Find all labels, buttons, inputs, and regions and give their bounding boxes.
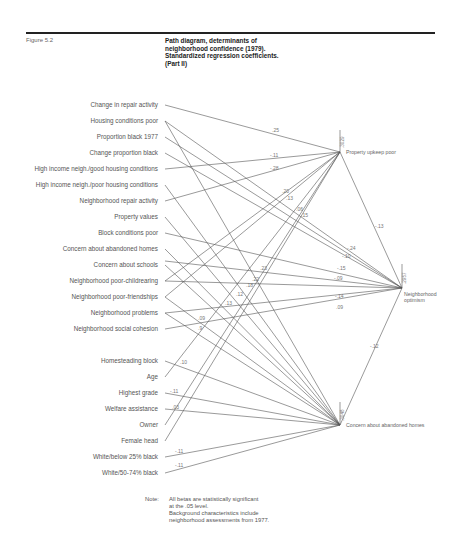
path-diagram: .25 -.11 -.28 .20 .13 .06 .15 -.13 -.24 … [0, 0, 457, 533]
svg-text:-.24: -.24 [347, 245, 356, 251]
svg-text:-.15: -.15 [337, 265, 346, 271]
svg-text:.23: .23 [260, 265, 267, 271]
svg-text:-.12: -.12 [370, 343, 379, 349]
svg-text:.25: .25 [272, 127, 279, 133]
svg-text:-.09: -.09 [334, 275, 343, 281]
svg-text:-.14: -.14 [335, 293, 344, 299]
svg-text:.13: .13 [286, 195, 293, 201]
note-line: All betas are statistically significant [169, 496, 269, 503]
node-property-upkeep: Property upkeep poor [346, 149, 396, 155]
node-abandoned: Concern about abandoned homes [346, 422, 424, 428]
svg-text:.22: .22 [252, 276, 259, 282]
note-label: Note: [145, 496, 159, 503]
node-optimism: Neighborhood optimism [404, 291, 437, 303]
node-optimism-line: optimism [404, 297, 437, 303]
svg-text:.10: .10 [180, 359, 187, 365]
svg-text:-.11: -.11 [175, 448, 183, 454]
svg-text:.3048: .3048 [340, 409, 345, 421]
svg-text:-.11: -.11 [270, 152, 278, 158]
note-text: All betas are statistically significant … [169, 496, 269, 524]
svg-text:.09: .09 [198, 315, 205, 321]
svg-text:.09: .09 [336, 304, 343, 310]
svg-text:-.10: -.10 [342, 253, 351, 259]
note-line: neighborhood assessments from 1977. [169, 517, 269, 524]
note-line: at the .05 level. [169, 503, 269, 510]
svg-text:.3029: .3029 [340, 136, 345, 148]
svg-text:-.28: -.28 [270, 165, 279, 171]
path-lines [165, 105, 402, 473]
r2-labels: .3029 .2957 .3048 [340, 136, 407, 421]
svg-text:.13: .13 [225, 300, 232, 306]
svg-text:-.11: -.11 [175, 462, 183, 468]
svg-text:.2957: .2957 [402, 272, 407, 284]
svg-text:-.13: -.13 [375, 223, 384, 229]
svg-text:.12: .12 [236, 291, 243, 297]
svg-text:.18: .18 [246, 282, 253, 288]
svg-text:.9: .9 [198, 325, 202, 331]
svg-text:.15: .15 [301, 212, 308, 218]
svg-text:-.11: -.11 [170, 388, 178, 394]
svg-text:.20: .20 [282, 188, 289, 194]
svg-text:.03: .03 [172, 404, 179, 410]
note-line: Background characteristics include [169, 510, 269, 517]
